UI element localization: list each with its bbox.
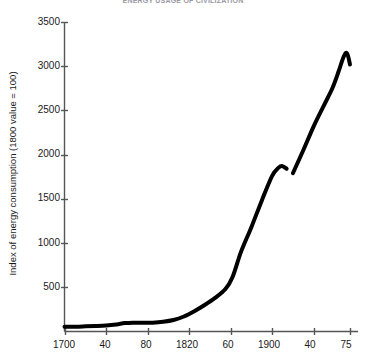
data-line bbox=[65, 166, 287, 327]
data-line bbox=[293, 53, 350, 173]
plot-area bbox=[0, 0, 366, 362]
data-line-group bbox=[65, 53, 351, 327]
chart-figure: ENERGY USAGE OF CIVILIZATION Index of en… bbox=[0, 0, 366, 362]
axes bbox=[61, 22, 358, 335]
